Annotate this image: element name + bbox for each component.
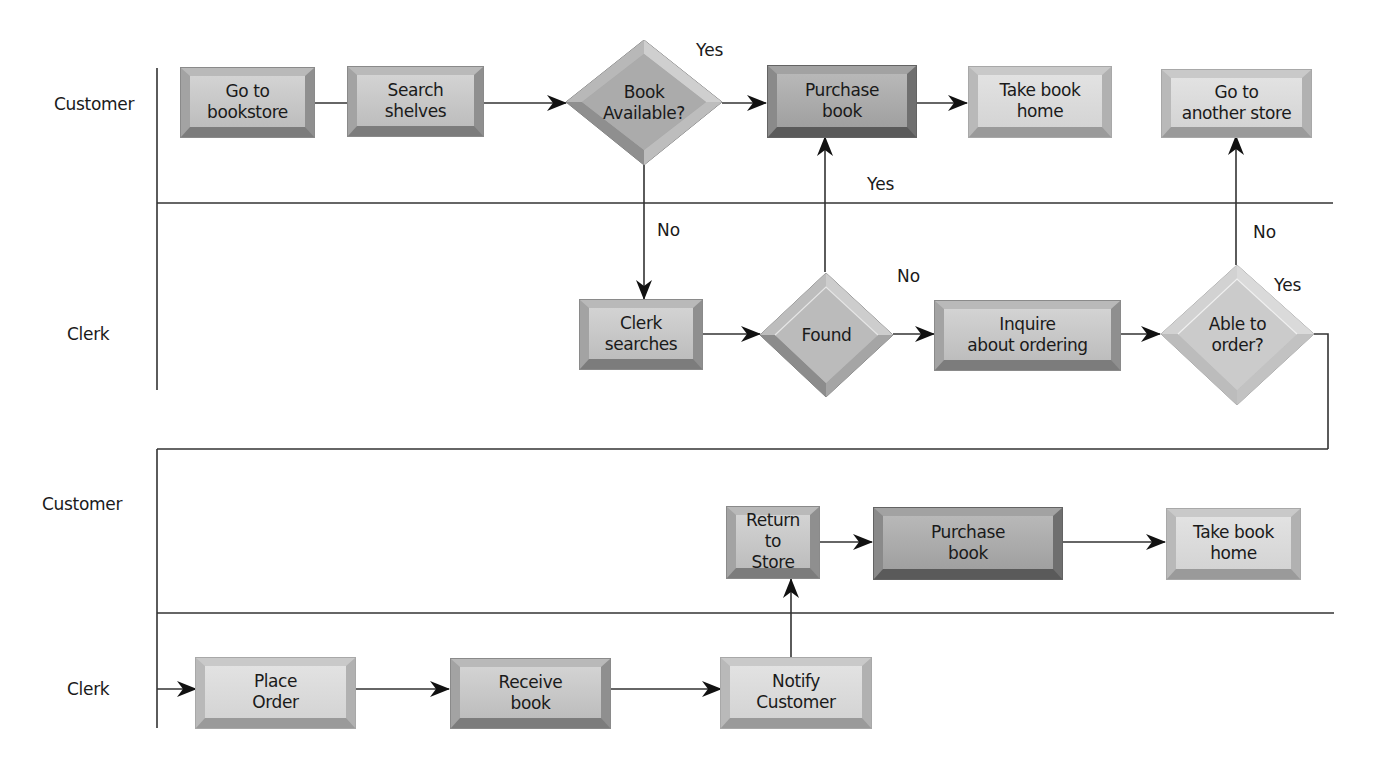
node-return-to-store: Return to Store xyxy=(727,507,819,578)
swimlane-flowchart: Customer Clerk Customer Clerk Go to book… xyxy=(0,0,1388,769)
node-label: Return to Store xyxy=(736,510,810,573)
node-clerk-searches: Clerk searches xyxy=(580,300,702,369)
node-label: Take book home xyxy=(1000,80,1081,122)
node-label: Take book home xyxy=(1193,522,1274,564)
lane-label-customer-2: Customer xyxy=(42,494,122,514)
node-label: Go to another store xyxy=(1182,82,1292,124)
edge-label-able-yes: Yes xyxy=(1274,275,1301,295)
node-purchase-book-1: Purchase book xyxy=(768,66,916,137)
node-inquire-about-ordering: Inquire about ordering xyxy=(935,301,1120,370)
node-purchase-book-2: Purchase book xyxy=(874,508,1062,579)
edge-label-found-yes: Yes xyxy=(867,174,894,194)
node-label: Purchase book xyxy=(805,80,879,122)
node-label: Search shelves xyxy=(385,80,446,122)
edge-label-available-yes: Yes xyxy=(696,40,723,60)
node-label: Purchase book xyxy=(931,522,1005,564)
edge-label-found-no: No xyxy=(897,266,920,286)
decision-found: Found xyxy=(760,273,893,397)
node-label: Inquire about ordering xyxy=(967,314,1087,356)
edge-label-able-no: No xyxy=(1253,222,1276,242)
node-go-to-another-store: Go to another store xyxy=(1162,70,1311,137)
node-notify-customer: Notify Customer xyxy=(721,658,871,728)
node-take-book-home-2: Take book home xyxy=(1167,509,1300,579)
lane-label-customer-1: Customer xyxy=(54,94,134,114)
node-take-book-home-1: Take book home xyxy=(969,67,1111,137)
lane-label-clerk-1: Clerk xyxy=(67,324,109,344)
edge-able-yes-route xyxy=(1314,334,1328,449)
node-place-order: Place Order xyxy=(196,658,355,728)
edge-label-available-no: No xyxy=(657,220,680,240)
node-label: Receive book xyxy=(499,672,563,714)
node-label: Notify Customer xyxy=(756,671,835,713)
node-label: Clerk searches xyxy=(605,313,678,355)
node-go-to-bookstore: Go to bookstore xyxy=(181,68,314,137)
node-search-shelves: Search shelves xyxy=(348,67,483,136)
lane-label-clerk-2: Clerk xyxy=(67,679,109,699)
node-receive-book: Receive book xyxy=(451,659,610,728)
node-label: Found xyxy=(760,273,893,397)
node-label: Place Order xyxy=(252,671,298,713)
node-label: Go to bookstore xyxy=(207,81,288,123)
